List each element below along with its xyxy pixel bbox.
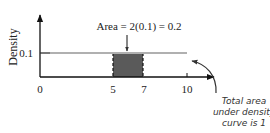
y-tick-label: 0.1 (19, 47, 33, 59)
y-axis-label: Density (6, 28, 20, 65)
x-tick-label-5: 5 (110, 83, 116, 95)
x-tick-label-10: 10 (182, 83, 194, 95)
uniform-density-diagram: 0.1 0 5 7 10 Density Area = 2(0.1) = 0.2… (0, 0, 270, 133)
x-tick-label-0: 0 (37, 83, 43, 95)
total-area-note-line2: under density (213, 107, 270, 117)
total-area-note-line1: Total area (222, 96, 267, 106)
total-area-note-line3: curve is 1 (222, 118, 266, 128)
area-annotation: Area = 2(0.1) = 0.2 (96, 20, 181, 33)
shaded-area-region (113, 53, 143, 77)
x-tick-label-7: 7 (141, 83, 147, 95)
